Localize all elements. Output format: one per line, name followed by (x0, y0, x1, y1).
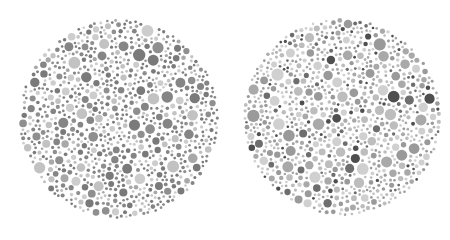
dot (124, 175, 128, 179)
dot (364, 141, 367, 144)
dot (100, 139, 103, 142)
dot (296, 54, 299, 57)
dot (215, 132, 218, 135)
dot (373, 125, 380, 132)
dot (76, 130, 79, 133)
dot (320, 159, 323, 162)
dot (399, 124, 402, 127)
dot (174, 191, 177, 194)
dot (302, 114, 308, 120)
dot (332, 101, 336, 105)
dot (161, 70, 164, 73)
dot (372, 78, 375, 81)
dot (344, 20, 353, 29)
dot (286, 174, 292, 180)
dot (405, 182, 408, 185)
dot (318, 162, 321, 165)
dot (155, 182, 163, 190)
dot (120, 214, 123, 217)
dot (409, 159, 412, 162)
dot (34, 146, 37, 149)
dot (22, 128, 25, 131)
dot (116, 73, 119, 76)
dot (158, 197, 161, 200)
dot (50, 80, 55, 85)
dot (294, 163, 297, 166)
dot (359, 132, 367, 140)
dot (43, 91, 46, 94)
dot (160, 206, 163, 209)
dot (367, 96, 370, 99)
dot (317, 105, 320, 108)
dot (178, 65, 181, 68)
dot (372, 187, 375, 190)
dot (107, 167, 111, 171)
dot (321, 34, 324, 37)
dot (116, 22, 121, 27)
dot (309, 68, 312, 71)
dot (331, 209, 336, 214)
dot (307, 49, 314, 56)
dot (107, 142, 110, 145)
dot (49, 73, 52, 76)
dot (105, 154, 108, 157)
dot (148, 188, 152, 192)
dot (123, 58, 126, 61)
dot (320, 181, 323, 184)
dot (32, 133, 40, 141)
dot (270, 158, 273, 161)
dot (363, 99, 367, 103)
dot (357, 140, 360, 143)
dot (141, 202, 144, 205)
dot (70, 193, 74, 197)
dot (353, 84, 356, 87)
dot (42, 137, 45, 140)
dot (167, 160, 179, 172)
dot (401, 132, 405, 136)
dot (56, 189, 59, 192)
dot (388, 129, 391, 132)
dot (317, 47, 321, 51)
dot (266, 168, 269, 171)
dot (396, 58, 400, 62)
dot (277, 147, 280, 150)
dot (102, 202, 105, 205)
dot (266, 172, 269, 175)
dot (125, 113, 128, 116)
dot (332, 77, 342, 87)
dot (361, 31, 364, 34)
dot (194, 60, 198, 64)
dot (329, 25, 332, 28)
dot (409, 52, 415, 58)
dot (129, 214, 132, 217)
dot (345, 101, 349, 105)
dot (374, 149, 377, 152)
dot (308, 62, 311, 65)
dot (159, 200, 162, 203)
dot (62, 110, 65, 113)
dot (295, 196, 303, 204)
dot (117, 185, 120, 188)
dot (394, 189, 397, 192)
dot (109, 65, 112, 68)
dot (306, 171, 309, 174)
dot (407, 186, 410, 189)
dot (200, 113, 203, 116)
dot (129, 120, 140, 131)
dot (66, 159, 70, 163)
dot (389, 183, 394, 188)
dot (361, 72, 364, 75)
dot (35, 124, 38, 127)
dot (393, 158, 396, 161)
dot (398, 80, 406, 88)
dot (61, 140, 68, 147)
dot (79, 158, 82, 161)
dot (114, 169, 117, 172)
dot (392, 45, 395, 48)
dot (119, 202, 122, 205)
dot (60, 136, 64, 140)
dot (201, 161, 204, 164)
dot (426, 134, 429, 137)
dot (305, 33, 314, 42)
dot (180, 139, 183, 142)
